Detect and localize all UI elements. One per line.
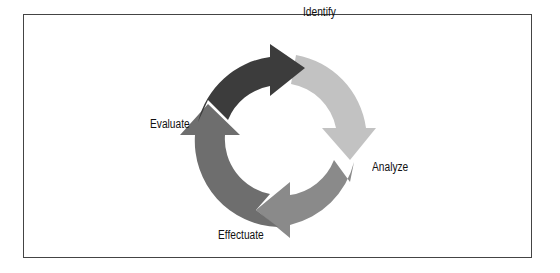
label-evaluate: Evaluate [150,117,190,131]
arrow-identify-to-analyze [291,55,376,160]
label-analyze: Analyze [372,160,408,174]
label-effectuate: Effectuate [218,228,264,242]
cycle-diagram [0,0,560,273]
label-identify: Identify [303,5,336,19]
